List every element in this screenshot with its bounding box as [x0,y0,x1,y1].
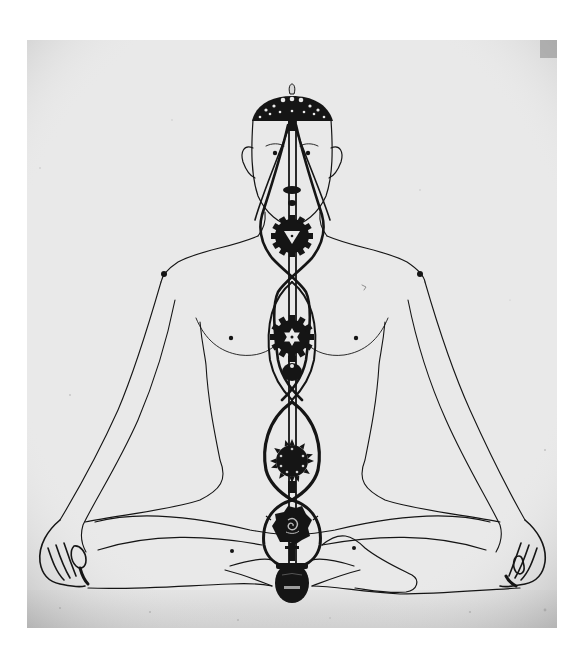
right-eye [306,151,310,155]
left-nipple [229,336,233,340]
right-shoulder-point [417,271,423,277]
left-eye [273,151,277,155]
illustration-plate [27,40,557,628]
chakra-figure-illustration [27,40,557,628]
right-nipple [354,336,358,340]
root-chakra-icon [275,563,309,603]
left-shoulder-point [161,271,167,277]
